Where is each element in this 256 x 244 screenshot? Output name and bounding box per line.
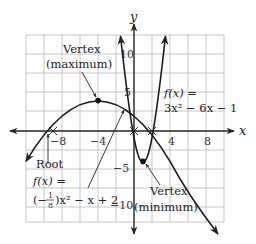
- vertex-minimum-point: [140, 159, 146, 165]
- x-axis-label: x: [239, 123, 247, 138]
- tick-y-neg5: −5: [113, 162, 129, 175]
- vertex-min-pointer: [146, 164, 160, 185]
- f2-frac-den: 8: [48, 201, 53, 210]
- tick-x-neg8: −8: [50, 135, 66, 148]
- y-axis-label: y: [129, 9, 138, 24]
- f1-label-line2: 3x² − 6x − 1: [164, 101, 237, 115]
- vertex-maximum-point: [95, 98, 101, 104]
- f2-label-suffix: )x² − x + 2: [55, 193, 118, 207]
- f1-label-line1: f(x) =: [163, 86, 197, 100]
- vertex-min-label-line2: (minimum): [134, 200, 198, 214]
- vertex-max-label-line2: (maximum): [46, 57, 112, 71]
- f2-label-prefix: (−: [33, 193, 47, 207]
- tick-x-4: 4: [168, 135, 175, 148]
- tick-x-neg4: −4: [90, 135, 106, 148]
- f2-pointer: [88, 110, 124, 188]
- vertex-max-pointer: [82, 72, 96, 97]
- tick-x-8: 8: [204, 135, 211, 148]
- f2-frac-num: 1: [48, 191, 53, 200]
- vertex-max-label-line1: Vertex: [62, 42, 101, 56]
- f2-label-line1: f(x) =: [32, 174, 66, 188]
- quadratic-graph: x y −8 −4 4 8 10 5 −5 −10 Vertex (maximu…: [0, 0, 256, 244]
- root-label: Root: [36, 157, 64, 171]
- vertex-min-label-line1: Vertex: [149, 184, 188, 198]
